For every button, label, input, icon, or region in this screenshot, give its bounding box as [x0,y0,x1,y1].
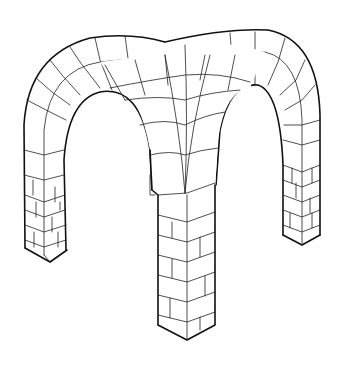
center-vault [100,44,265,195]
groin-vault-drawing [0,0,341,376]
groin-vault-illustration: Groin vault line drawing [0,0,341,376]
